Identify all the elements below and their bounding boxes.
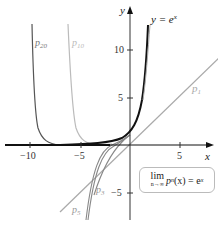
x-tick-label: −10 [20,150,36,161]
x-tick-label: −5 [74,150,85,161]
y-axis-label: y [119,4,125,16]
lim-text: lim [151,172,164,180]
exp-curve-shadow [143,25,150,100]
y-axis-arrow-icon [127,6,133,14]
exp-label: y = ex [150,13,178,25]
y-tick-label: −5 [111,187,122,198]
lim-subscript: n→∞ [151,180,164,188]
p1-label: p1 [191,82,201,96]
y-tick-label: 10 [114,44,124,55]
p5-label: p5 [71,204,81,217]
x-tick-label: 5 [177,150,182,161]
x-axis-label: x [204,150,210,162]
limit-operator: lim n→∞ [151,172,164,188]
p5-curve-2 [88,135,130,220]
p3-label: p3 [95,184,105,197]
p10-label: p10 [71,37,85,50]
x-axis-arrow-icon [206,142,214,148]
limit-formula-box: lim n→∞ pn(x) = ex [139,167,215,193]
x-superscript: x [201,177,204,183]
p20-label: p20 [34,37,48,50]
limit-rest: (x) = e [174,175,201,186]
y-tick-label: 5 [118,92,123,103]
p5-curve [86,135,130,220]
